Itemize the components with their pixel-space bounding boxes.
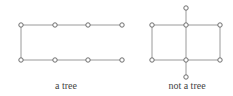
graph-node xyxy=(19,58,23,62)
graph-node xyxy=(218,23,222,27)
graph-node xyxy=(150,58,154,62)
graph-node xyxy=(150,23,154,27)
tree-caption: a tree xyxy=(55,80,77,91)
graph-node xyxy=(120,23,124,27)
graph-node xyxy=(184,23,188,27)
graph-node xyxy=(184,58,188,62)
not-tree-graph xyxy=(150,6,222,79)
graph-node xyxy=(53,58,57,62)
not-tree-caption: not a tree xyxy=(168,80,205,91)
graph-node xyxy=(53,23,57,27)
graph-node xyxy=(184,6,188,10)
tree-graph xyxy=(19,23,124,62)
graph-node xyxy=(218,58,222,62)
graph-node xyxy=(86,58,90,62)
graph-node xyxy=(184,75,188,79)
graph-node xyxy=(86,23,90,27)
graph-node xyxy=(120,58,124,62)
graph-node xyxy=(19,23,23,27)
